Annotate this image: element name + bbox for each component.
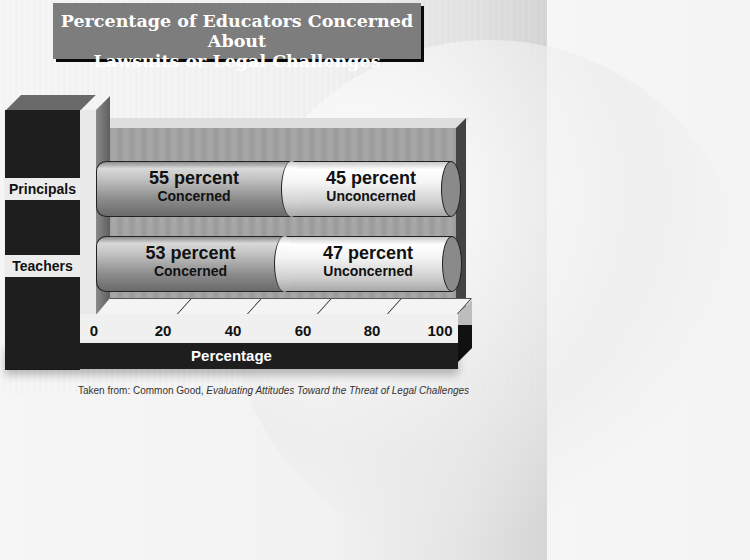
x-axis xyxy=(80,314,458,343)
chart-title-line2: Lawsuits or Legal Challenges xyxy=(53,51,421,71)
plot-panel-top xyxy=(100,118,470,128)
bar-principals: 55 percent Concerned 45 percent Unconcer… xyxy=(96,161,466,217)
x-tick-40: 40 xyxy=(213,322,253,339)
plot-floor xyxy=(96,298,472,315)
bar-teachers-unconcerned-label: 47 percent Unconcerned xyxy=(284,243,452,280)
x-tick-0: 0 xyxy=(74,322,114,339)
bar-teachers-unconcerned: 47 percent Unconcerned xyxy=(284,236,452,292)
bar-principals-unconcerned: 45 percent Unconcerned xyxy=(291,161,451,217)
bar-principals-concerned: 55 percent Concerned xyxy=(96,161,291,217)
chart-title-line1: Percentage of Educators Concerned About xyxy=(53,11,421,51)
source-prefix: Taken from: Common Good, xyxy=(78,385,206,396)
bar-teachers-concerned-label: 53 percent Concerned xyxy=(97,243,284,280)
bar-teachers: 53 percent Concerned 47 percent Unconcer… xyxy=(96,236,466,292)
x-axis-label: Percentage xyxy=(5,347,458,364)
bar-teachers-concerned: 53 percent Concerned xyxy=(96,236,284,292)
x-tick-60: 60 xyxy=(283,322,323,339)
x-tick-100: 100 xyxy=(420,322,460,339)
x-tick-80: 80 xyxy=(352,322,392,339)
source-note: Taken from: Common Good, Evaluating Atti… xyxy=(0,385,547,396)
x-tick-20: 20 xyxy=(143,322,183,339)
plot-panel-edge xyxy=(456,118,466,328)
category-label-principals: Principals xyxy=(5,178,80,200)
bar-principals-concerned-label: 55 percent Concerned xyxy=(97,168,291,205)
source-title: Evaluating Attitudes Toward the Threat o… xyxy=(206,385,469,396)
category-axis-block xyxy=(5,110,80,370)
pillar xyxy=(80,110,96,345)
category-label-teachers: Teachers xyxy=(5,255,80,277)
bar-principals-unconcerned-label: 45 percent Unconcerned xyxy=(291,168,451,205)
chart-title: Percentage of Educators Concerned About … xyxy=(53,3,421,59)
